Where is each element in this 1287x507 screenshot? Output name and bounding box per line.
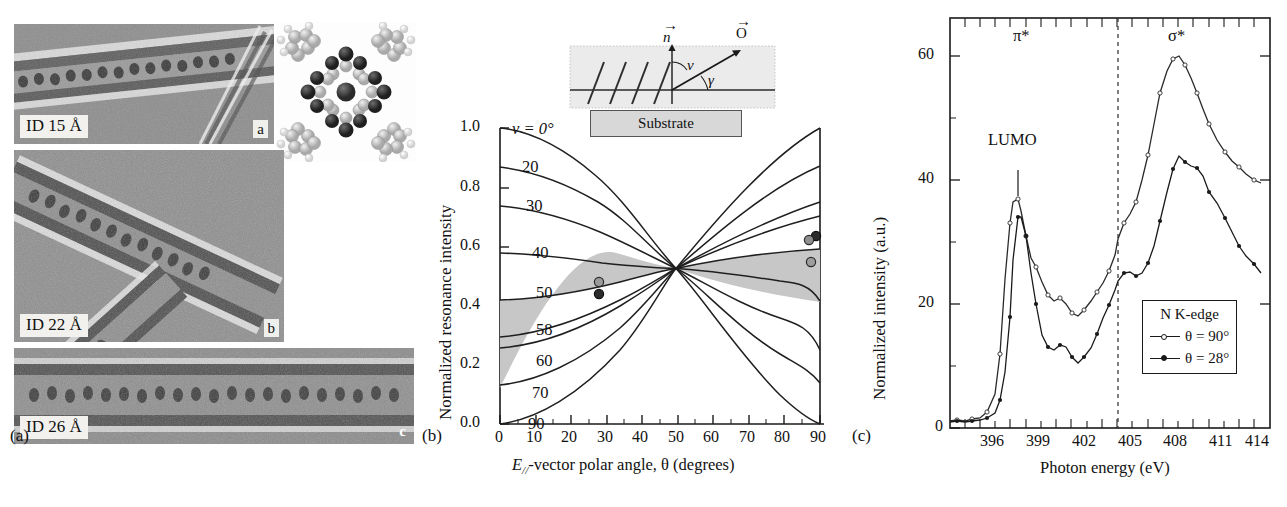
phthalocyanine-molecule-model	[276, 22, 416, 162]
central-metal-atom	[337, 83, 356, 102]
panel-c-xtick-2: 402	[1072, 432, 1096, 450]
tem-corner-tag-a: a	[253, 120, 268, 138]
legend-marker-open-icon	[1150, 332, 1180, 341]
tem-image-1: ID 15 Å a	[14, 24, 274, 144]
panel-b-xtick-4: 40	[632, 428, 648, 446]
panel-c-ytick-1: 20	[918, 293, 934, 311]
tem-corner-tag-c: c	[395, 422, 410, 440]
panel-c-ytick-3: 60	[918, 45, 934, 63]
legend-title: N K-edge	[1150, 304, 1229, 326]
panel-c-xtick-4: 408	[1163, 432, 1187, 450]
panel-c-xtick-0: 396	[980, 432, 1004, 450]
tem-image-2: ID 22 Å b	[14, 150, 284, 342]
inset-o-vector-label: →O	[736, 18, 751, 42]
panel-b-xtick-9: 90	[810, 428, 826, 446]
panel-c-legend: N K-edge θ = 90° θ = 28°	[1142, 300, 1237, 374]
panel-b-xtick-8: 80	[774, 428, 790, 446]
panel-b-xtick-3: 30	[597, 428, 613, 446]
inset-gamma-angle-label: γ	[708, 72, 714, 89]
panel-c: Normalized intensity (a.u.)	[850, 0, 1287, 460]
panel-b-xtick-0: 0	[495, 428, 503, 446]
tem-id-label-1: ID 15 Å	[20, 115, 88, 138]
panel-c-xtick-5: 411	[1209, 432, 1232, 450]
panel-b-xtick-2: 20	[561, 428, 577, 446]
inset-substrate-box: Substrate	[590, 110, 742, 137]
curve-label-40: 40	[532, 243, 549, 263]
curve-label-60: 60	[536, 351, 553, 371]
panel-tag-a: (a)	[10, 426, 29, 446]
panel-b-ytick-3: 0.6	[460, 236, 480, 254]
tem-id-label-3: ID 26 Å	[20, 416, 88, 439]
panel-b-ytick-4: 0.8	[460, 177, 480, 195]
legend-entry-theta-90: θ = 90°	[1150, 326, 1229, 348]
curve-label-58: 58	[536, 320, 553, 340]
panel-a: ID 15 Å a	[0, 0, 420, 460]
panel-c-xtick-3: 405	[1118, 432, 1142, 450]
panel-b-xtick-5: 50	[668, 428, 684, 446]
curve-label-20: 20	[522, 157, 539, 177]
sigma-star-annotation: σ*	[1168, 26, 1185, 46]
panel-b: Normalized resonance intensity	[420, 0, 850, 460]
panel-tag-c: (c)	[852, 426, 871, 446]
curve-label-30: 30	[526, 196, 543, 216]
panel-c-ytick-0: 0	[935, 417, 943, 435]
tem-image-3: ID 26 Å c	[14, 348, 414, 444]
panel-b-ytick-1: 0.2	[460, 354, 480, 372]
panel-c-xlabel: Photon energy (eV)	[1040, 458, 1170, 478]
legend-label-theta-90: θ = 90°	[1185, 326, 1229, 348]
lumo-annotation: LUMO	[988, 130, 1037, 150]
panel-b-ytick-5: 1.0	[460, 117, 480, 135]
panel-b-xtick-7: 70	[739, 428, 755, 446]
panel-c-ytick-2: 40	[918, 169, 934, 187]
panel-b-xtick-1: 10	[526, 428, 542, 446]
panel-c-plot	[850, 0, 1287, 450]
panel-tag-b: (b)	[422, 426, 442, 446]
panel-b-ytick-0: 0.0	[460, 413, 480, 431]
panel-c-xtick-1: 399	[1026, 432, 1050, 450]
tem-id-label-2: ID 22 Å	[20, 314, 88, 337]
marker-theta28-filled	[594, 289, 603, 298]
marker-theta28-open	[594, 277, 603, 286]
panel-b-xtick-6: 60	[703, 428, 719, 446]
legend-marker-filled-icon	[1150, 354, 1180, 363]
pi-star-annotation: π*	[1013, 26, 1030, 46]
inset-nu-angle-label: ν	[687, 57, 694, 74]
panel-b-ytick-2: 0.4	[460, 295, 480, 313]
legend-entry-theta-28: θ = 28°	[1150, 348, 1229, 370]
tem-corner-tag-b: b	[264, 319, 280, 337]
spectrum-theta-28-markers	[955, 160, 1256, 423]
inset-n-vector-label: →n	[663, 22, 678, 46]
panel-b-xlabel: E//-vector polar angle, θ (degrees)	[512, 455, 734, 476]
curve-label-50: 50	[536, 283, 553, 303]
legend-label-theta-28: θ = 28°	[1185, 348, 1229, 370]
marker-theta90-open-1	[804, 235, 813, 244]
curve-label-70: 70	[532, 383, 549, 403]
curve-label-nu0: ν = 0°	[512, 119, 554, 139]
marker-theta90-open-2	[806, 257, 815, 266]
figure-root: ID 15 Å a	[0, 0, 1287, 507]
panel-c-xtick-6: 414	[1245, 432, 1269, 450]
panel-b-inset	[570, 44, 775, 108]
panel-b-plot	[420, 0, 850, 450]
